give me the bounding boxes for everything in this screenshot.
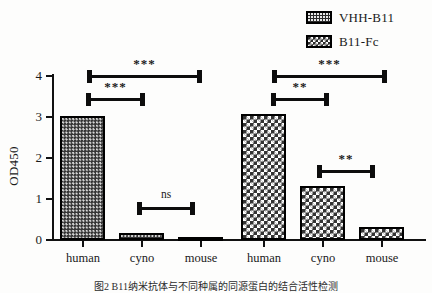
- sig-cap-right: [197, 70, 202, 83]
- x-tick-5: [381, 241, 383, 247]
- sig-cap-right: [190, 202, 195, 215]
- chart-legend: VHH-B11 B11-Fc: [306, 8, 394, 56]
- sig-line: [271, 98, 329, 101]
- sig-label-fc-cyno-mouse: **: [317, 152, 375, 165]
- sig-cap-right: [324, 93, 329, 106]
- bar-vhh-b11-cyno: [119, 233, 164, 240]
- x-tick-label-0: human: [53, 252, 113, 265]
- y-tick-label-2: 2: [24, 151, 42, 164]
- x-tick-label-4: cyno: [293, 252, 353, 265]
- legend-label-b11-fc: B11-Fc: [339, 35, 379, 48]
- y-tick-label-3: 3: [24, 110, 42, 123]
- x-tick-label-1: cyno: [112, 252, 172, 265]
- y-tick-4: [46, 75, 53, 77]
- y-tick-2: [46, 157, 53, 159]
- bar-b11-fc-mouse: [359, 227, 404, 240]
- x-tick-label-2: mouse: [171, 252, 231, 265]
- legend-item-b11-fc: B11-Fc: [306, 32, 394, 51]
- sig-line: [137, 207, 195, 210]
- sig-line: [317, 170, 375, 173]
- legend-swatch-vhh-b11: [306, 11, 332, 24]
- y-tick-label-4: 4: [24, 69, 42, 82]
- bar-b11-fc-cyno: [300, 186, 345, 240]
- x-tick-label-3: human: [234, 252, 294, 265]
- legend-label-vhh-b11: VHH-B11: [339, 11, 394, 24]
- y-tick-label-0: 0: [24, 233, 42, 246]
- figure-caption: 图2 B11纳米抗体与不同种属的同源蛋白的结合活性检测: [0, 278, 432, 293]
- sig-label-vhh-human-mouse: ***: [87, 57, 202, 70]
- x-tick-3: [263, 241, 265, 247]
- x-tick-label-5: mouse: [352, 252, 412, 265]
- x-tick-0: [82, 241, 84, 247]
- sig-cap-right: [382, 70, 387, 83]
- bar-vhh-b11-human: [60, 116, 105, 240]
- bar-b11-fc-human: [241, 114, 286, 240]
- sig-label-vhh-human-cyno: ***: [86, 80, 145, 93]
- sig-line: [86, 98, 145, 101]
- sig-label-fc-human-mouse: ***: [272, 57, 387, 70]
- y-tick-label-1: 1: [24, 192, 42, 205]
- y-tick-3: [46, 116, 53, 118]
- x-tick-2: [200, 241, 202, 247]
- sig-cap-right: [370, 165, 375, 178]
- legend-item-vhh-b11: VHH-B11: [306, 8, 394, 27]
- y-axis-label: OD450: [6, 136, 22, 196]
- bar-vhh-b11-mouse: [178, 237, 223, 241]
- legend-swatch-b11-fc: [306, 35, 332, 48]
- x-tick-1: [141, 241, 143, 247]
- x-tick-4: [322, 241, 324, 247]
- y-tick-1: [46, 198, 53, 200]
- sig-cap-right: [140, 93, 145, 106]
- sig-label-fc-human-cyno: **: [271, 80, 329, 93]
- sig-line: [272, 75, 387, 78]
- sig-line: [87, 75, 202, 78]
- sig-label-vhh-cyno-mouse: ns: [137, 188, 195, 201]
